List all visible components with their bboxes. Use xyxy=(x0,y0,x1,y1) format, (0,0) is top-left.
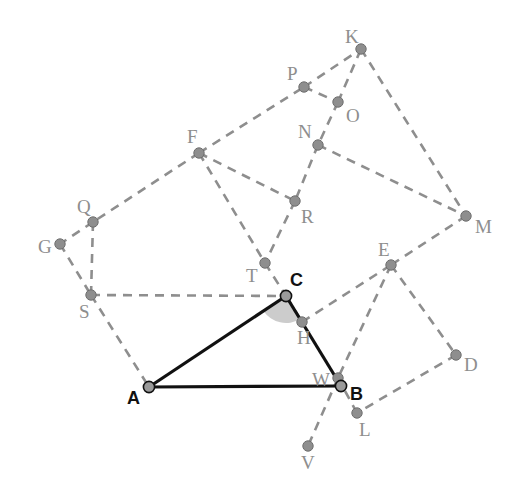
dashed-edge-NR xyxy=(295,145,318,201)
vertex-label-v: V xyxy=(301,453,315,472)
vertex-dot-d[interactable] xyxy=(451,350,461,360)
vertex-dot-q[interactable] xyxy=(88,217,98,227)
vertex-label-t: T xyxy=(246,266,258,285)
vertex-label-n: N xyxy=(298,122,312,141)
vertex-label-f: F xyxy=(187,127,198,146)
vertex-dot-r[interactable] xyxy=(290,196,300,206)
vertex-label-g: G xyxy=(38,237,52,256)
vertex-label-p: P xyxy=(287,64,298,83)
dashed-edge-FP xyxy=(199,87,304,153)
vertex-dot-l[interactable] xyxy=(352,408,362,418)
vertex-dot-s[interactable] xyxy=(86,290,96,300)
dashed-edge-DL xyxy=(357,355,456,413)
geometry-figure: KPONFMRQGETSCHDAWBLV xyxy=(0,0,517,503)
vertex-label-w: W xyxy=(312,370,330,389)
dashed-edge-ON xyxy=(318,102,338,145)
dashed-edge-KM xyxy=(361,49,466,216)
dashed-edge-ED xyxy=(391,265,456,355)
solid-edge-AC xyxy=(149,296,286,387)
dashed-edge-HE xyxy=(302,265,391,322)
vertex-dot-h[interactable] xyxy=(297,317,307,327)
dashed-edge-FR xyxy=(199,153,295,201)
dashed-edge-EW xyxy=(338,265,391,378)
dashed-edge-FQ xyxy=(93,153,199,222)
vertex-dot-g[interactable] xyxy=(55,239,65,249)
dashed-edge-QS xyxy=(91,222,93,295)
vertex-dot-c[interactable] xyxy=(280,290,291,301)
vertex-label-b: B xyxy=(350,385,363,403)
dashed-edge-ME xyxy=(391,216,466,265)
dashed-edge-SC xyxy=(91,295,286,296)
dashed-edge-GS xyxy=(60,244,91,295)
vertex-label-a: A xyxy=(127,389,140,407)
vertex-dot-n[interactable] xyxy=(313,140,323,150)
vertex-dot-v[interactable] xyxy=(303,441,313,451)
vertex-dot-a[interactable] xyxy=(143,381,154,392)
geometry-canvas xyxy=(0,0,517,503)
vertex-dot-f[interactable] xyxy=(194,148,204,158)
vertex-dot-layer xyxy=(55,44,471,451)
vertex-dot-p[interactable] xyxy=(299,82,309,92)
vertex-dot-m[interactable] xyxy=(461,211,471,221)
vertex-label-e: E xyxy=(378,240,390,259)
vertex-label-r: R xyxy=(301,207,314,226)
vertex-label-q: Q xyxy=(77,197,91,216)
vertex-label-m: M xyxy=(475,217,492,236)
vertex-label-o: O xyxy=(346,106,360,125)
dashed-edge-NM xyxy=(318,145,466,216)
vertex-label-k: K xyxy=(345,27,359,46)
vertex-dot-b[interactable] xyxy=(335,380,346,391)
vertex-label-l: L xyxy=(359,420,371,439)
dashed-edge-SA xyxy=(91,295,149,387)
vertex-dot-t[interactable] xyxy=(260,258,270,268)
vertex-dot-e[interactable] xyxy=(386,260,396,270)
vertex-label-h: H xyxy=(297,328,311,347)
vertex-label-s: S xyxy=(79,302,90,321)
vertex-label-d: D xyxy=(464,355,478,374)
vertex-dot-o[interactable] xyxy=(333,97,343,107)
dashed-edge-RT xyxy=(265,201,295,263)
vertex-label-c: C xyxy=(290,271,303,289)
dashed-edge-QG xyxy=(60,222,93,244)
